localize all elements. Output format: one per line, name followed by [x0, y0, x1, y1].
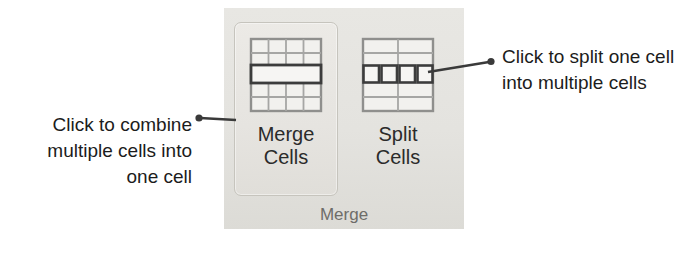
split-cells-callout-text: Click to split one cell into multiple ce… — [502, 44, 692, 96]
ribbon-group-label: Merge — [224, 205, 464, 225]
merge-cells-label: Merge Cells — [258, 123, 315, 169]
merge-cells-table-icon — [248, 35, 324, 115]
ribbon-button-row: Merge Cells — [224, 8, 464, 196]
split-cells-label-line1: Split — [379, 123, 418, 145]
merge-cells-callout-text: Click to combine multiple cells into one… — [10, 112, 192, 190]
merge-cells-label-line1: Merge — [258, 123, 315, 145]
split-cells-button[interactable]: Split Cells — [346, 22, 450, 196]
merge-cells-label-line2: Cells — [264, 146, 308, 168]
split-cells-label: Split Cells — [376, 123, 420, 169]
split-cells-table-icon — [360, 35, 436, 115]
merge-cells-button[interactable]: Merge Cells — [234, 22, 338, 196]
ribbon-group-merge: Merge Cells — [224, 8, 464, 229]
split-cells-label-line2: Cells — [376, 146, 420, 168]
